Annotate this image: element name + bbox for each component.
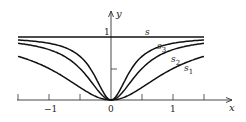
y-tick-label-1: 1 xyxy=(104,27,110,37)
function-plot: y x 1 −1 0 1 s s3 s2 s1 xyxy=(0,0,246,122)
series-label-s: s xyxy=(145,27,150,37)
series-label-s2: s2 xyxy=(171,54,180,67)
series-label-s3: s3 xyxy=(157,41,166,54)
plot-canvas: y x 1 −1 0 1 s s3 s2 s1 xyxy=(0,0,246,122)
y-axis-label: y xyxy=(115,8,122,19)
x-tick-label-0: 0 xyxy=(108,104,114,114)
x-tick-label-minus-1: −1 xyxy=(44,104,57,114)
x-tick-label-1: 1 xyxy=(170,104,176,114)
series-label-s1: s1 xyxy=(184,63,193,76)
x-axis-label: x xyxy=(229,102,235,113)
